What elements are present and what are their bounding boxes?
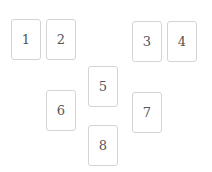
card-label: 6 xyxy=(57,103,65,118)
card-label: 4 xyxy=(178,34,186,49)
card-1[interactable]: 1 xyxy=(11,19,41,60)
card-8[interactable]: 8 xyxy=(88,125,118,166)
card-label: 1 xyxy=(22,32,30,47)
card-5[interactable]: 5 xyxy=(88,66,118,107)
card-label: 5 xyxy=(99,79,107,94)
card-6[interactable]: 6 xyxy=(46,90,76,131)
card-label: 7 xyxy=(143,105,151,120)
card-3[interactable]: 3 xyxy=(132,21,162,62)
card-2[interactable]: 2 xyxy=(46,19,76,60)
card-4[interactable]: 4 xyxy=(167,21,197,62)
card-label: 3 xyxy=(143,34,151,49)
card-label: 2 xyxy=(57,32,65,47)
card-7[interactable]: 7 xyxy=(132,92,162,133)
card-label: 8 xyxy=(99,138,107,153)
